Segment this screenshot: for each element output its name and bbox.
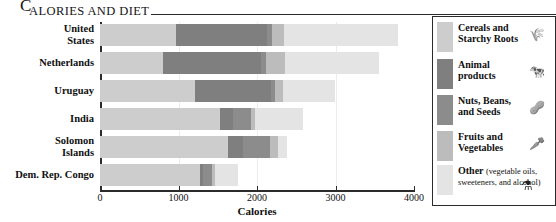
bar-segment [278,136,287,158]
x-axis-tick [336,186,337,191]
legend-swatch [437,131,453,161]
bar-segment [176,24,267,46]
bar-segment [100,164,200,186]
x-axis-title: Calories [100,205,414,217]
chart-plot-area [100,22,414,189]
legend-item[interactable]: Animalproducts [437,59,496,89]
bar-row [100,80,414,102]
y-axis-label: UnitedStates [64,23,94,46]
y-axis-label: Netherlands [39,57,94,69]
legend-item[interactable]: Other (vegetable oils, sweeteners, and a… [437,165,555,195]
y-axis-label: Dem. Rep. Congo [15,169,94,181]
x-axis-tick-label: 1000 [169,192,189,203]
x-axis-tick-label: 4000 [404,192,424,203]
x-axis-tick [257,186,258,191]
bar-segment [270,136,278,158]
bar-segment [100,80,195,102]
legend-label: Fruits andVegetables [458,131,503,153]
legend-label: Other (vegetable oils, sweeteners, and a… [458,165,555,188]
legend-swatch [437,59,453,89]
legend-swatch [437,22,453,52]
bar-segment [243,136,270,158]
bar-row [100,136,414,158]
legend-label: Animalproducts [458,59,496,81]
bar-segment [163,52,261,74]
bar-segment [255,108,303,130]
bar-segment [266,52,285,74]
legend-label: Cereals andStarchy Roots [458,22,518,44]
x-axis-tick-label: 3000 [326,192,346,203]
bar-segment [215,164,238,186]
vegetable-icon: 🥕 [529,137,545,150]
bar-segment [100,108,220,130]
y-axis-label: SolomonIslands [55,135,94,158]
bar-segment [195,80,271,102]
legend-item[interactable]: Cereals andStarchy Roots [437,22,518,52]
x-axis-tick-label: 2000 [247,192,267,203]
x-axis-tick [179,186,180,191]
page-title: ALORIES AND DIET [29,5,149,18]
bar-row [100,108,414,130]
bar-segment [100,52,163,74]
bar-segment [203,164,212,186]
cow-icon: 🐄 [529,65,545,78]
bar-segment [275,80,283,102]
bar-segment [228,136,243,158]
nut-bowl-icon: 🥜 [529,101,545,114]
title-dropcap: C [20,0,31,12]
chart-legend: 🌾Cereals andStarchy Roots🐄Animalproducts… [432,16,556,206]
bar-segment [285,52,379,74]
y-axis-label: India [70,113,94,125]
legend-label: Nuts, Beans,and Seeds [458,95,511,117]
legend-swatch [437,95,453,125]
x-axis-tick-label: 0 [98,192,103,203]
title-rule [151,14,556,15]
y-axis-label: Uruguay [54,85,94,97]
bar-segment [100,136,228,158]
bar-segment [100,24,176,46]
bar-segment [284,24,398,46]
legend-item[interactable]: Nuts, Beans,and Seeds [437,95,511,125]
x-axis-tick [414,186,415,191]
bar-row [100,24,414,46]
bar-segment [220,108,233,130]
bar-row [100,52,414,74]
x-axis-tick [100,186,101,191]
bar-segment [233,108,251,130]
legend-item[interactable]: Fruits andVegetables [437,131,503,161]
bar-segment [283,80,335,102]
wheat-icon: 🌾 [529,28,545,41]
bar-segment [272,24,285,46]
legend-swatch [437,165,453,195]
bar-row [100,164,414,186]
